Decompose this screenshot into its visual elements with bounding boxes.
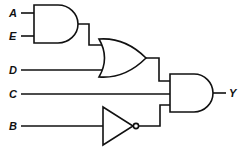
not-bubble-icon	[133, 123, 138, 128]
wire-or-to-and2	[146, 58, 170, 81]
input-label-b: B	[9, 120, 17, 132]
input-label-e: E	[9, 30, 17, 42]
input-label-a: A	[8, 7, 17, 19]
and-gate-1	[34, 5, 78, 43]
not-gate	[103, 107, 133, 145]
and-gate-2	[170, 74, 213, 112]
input-label-c: C	[9, 88, 18, 100]
output-label-y: Y	[229, 87, 238, 99]
wire-not-to-and2	[139, 105, 170, 126]
wire-and1-to-or	[78, 24, 103, 45]
input-label-d: D	[9, 64, 17, 76]
or-gate	[99, 39, 146, 77]
logic-circuit-diagram: A E D C B Y	[0, 0, 246, 161]
